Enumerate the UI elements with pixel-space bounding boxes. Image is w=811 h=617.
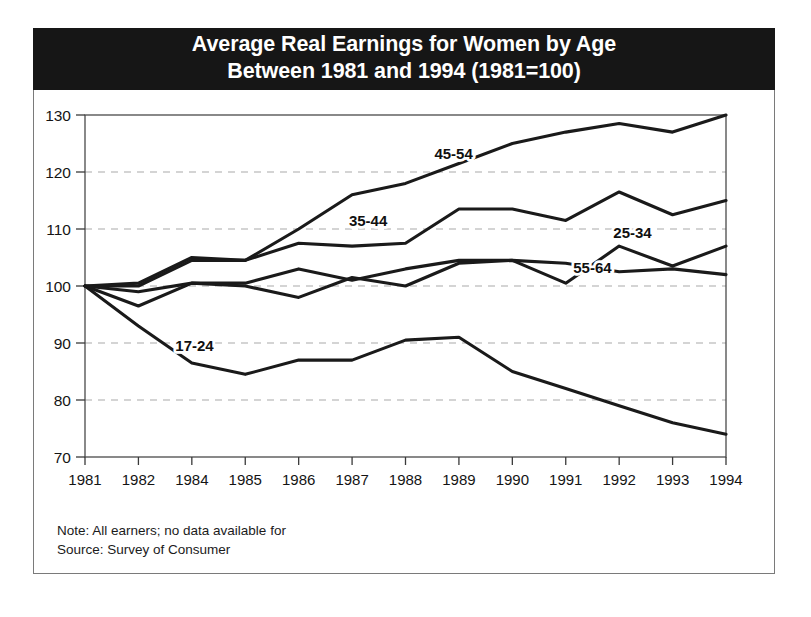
y-tick-label: 70: [54, 449, 72, 466]
x-tick-label: 1984: [175, 471, 208, 488]
x-tick-labels: 1981198219841985198619871988198919901991…: [68, 471, 742, 488]
series-label-35-44: 35-44: [349, 212, 388, 229]
chart-title-line-2: Between 1981 and 1994 (1981=100): [33, 58, 775, 85]
screenshot-root: Average Real Earnings for Women by Age B…: [0, 0, 811, 617]
series-label-25-34: 25-34: [613, 224, 652, 241]
series-label-45-54: 45-54: [434, 145, 473, 162]
x-tick-label: 1982: [122, 471, 155, 488]
x-tick-label: 1989: [442, 471, 475, 488]
chart-title-line-1: Average Real Earnings for Women by Age: [33, 31, 775, 58]
x-tick-label: 1991: [549, 471, 582, 488]
y-tick-label: 90: [54, 335, 72, 352]
series-line-17-24: [85, 286, 726, 434]
y-tick-label: 120: [45, 164, 71, 181]
y-tick-label: 80: [54, 392, 72, 409]
series-label-17-24: 17-24: [175, 337, 214, 354]
x-tick-label: 1986: [282, 471, 315, 488]
footnotes: Note: All earners; no data available for…: [57, 521, 286, 559]
chart-title: Average Real Earnings for Women by Age B…: [33, 31, 775, 85]
chart-title-banner: Average Real Earnings for Women by Age B…: [33, 28, 775, 90]
x-tick-label: 1993: [656, 471, 689, 488]
x-tick-label: 1994: [709, 471, 742, 488]
note-text: Note: All earners; no data available for: [57, 521, 286, 540]
y-tick-label: 130: [45, 107, 71, 124]
line-chart: 708090100110120130 198119821984198519861…: [33, 90, 775, 574]
y-tick-label: 100: [45, 278, 71, 295]
x-tick-label: 1990: [496, 471, 529, 488]
series-label-55-64: 55-64: [573, 259, 612, 276]
data-series-lines: [85, 115, 726, 434]
x-tick-label: 1988: [389, 471, 422, 488]
series-line-45-54: [85, 115, 726, 286]
y-tick-label: 110: [46, 221, 71, 238]
x-tick-label: 1985: [229, 471, 262, 488]
x-tick-label: 1992: [602, 471, 635, 488]
plot-area: 708090100110120130 198119821984198519861…: [33, 90, 775, 574]
x-tick-label: 1987: [335, 471, 368, 488]
source-text: Source: Survey of Consumer: [57, 540, 286, 559]
series-inline-labels: 17-2417-2425-3425-3435-4435-4445-5445-54…: [175, 145, 652, 354]
x-tick-label: 1981: [68, 471, 101, 488]
series-line-25-34: [85, 246, 726, 306]
y-tick-labels: 708090100110120130: [45, 107, 71, 466]
